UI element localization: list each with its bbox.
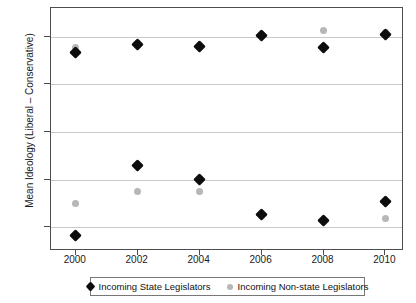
circle-marker-icon bbox=[227, 284, 233, 290]
plot-area bbox=[50, 7, 403, 250]
legend-item-label: Incoming Non-state Legislators bbox=[238, 281, 369, 292]
x-axis-tick-label: 2002 bbox=[114, 254, 160, 265]
data-point-diamond bbox=[317, 41, 330, 54]
diamond-marker-icon bbox=[85, 282, 95, 292]
data-point-diamond bbox=[193, 173, 206, 186]
data-point-diamond bbox=[317, 214, 330, 227]
x-axis-tick-mark bbox=[384, 250, 385, 255]
data-point-circle bbox=[134, 188, 141, 195]
gridline bbox=[51, 84, 402, 85]
gridline bbox=[51, 37, 402, 38]
data-point-diamond bbox=[255, 29, 268, 42]
chart-container: Mean Ideology (Liberal – Conservative) 1… bbox=[0, 0, 416, 303]
data-point-circle bbox=[382, 215, 389, 222]
x-axis-tick-mark bbox=[199, 250, 200, 255]
legend-item[interactable]: Incoming Non-state Legislators bbox=[227, 281, 369, 292]
data-point-diamond bbox=[69, 46, 82, 59]
x-axis-tick-mark bbox=[261, 250, 262, 255]
data-point-circle bbox=[72, 200, 79, 207]
y-axis-title: Mean Ideology (Liberal – Conservative) bbox=[24, 1, 35, 241]
x-axis-tick-label: 2000 bbox=[52, 254, 98, 265]
gridline bbox=[51, 132, 402, 133]
legend-item-label: Incoming State Legislators bbox=[99, 281, 211, 292]
chart-legend: Incoming State LegislatorsIncoming Non-s… bbox=[90, 277, 365, 296]
data-point-circle bbox=[196, 188, 203, 195]
x-axis-tick-label: 2008 bbox=[300, 254, 346, 265]
data-point-diamond bbox=[379, 195, 392, 208]
x-axis-tick-mark bbox=[137, 250, 138, 255]
data-point-diamond bbox=[131, 159, 144, 172]
x-axis-tick-label: 2006 bbox=[238, 254, 284, 265]
data-point-circle bbox=[320, 27, 327, 34]
gridline bbox=[51, 180, 402, 181]
data-point-diamond bbox=[193, 40, 206, 53]
x-axis-tick-mark bbox=[323, 250, 324, 255]
data-point-diamond bbox=[255, 208, 268, 221]
legend-item[interactable]: Incoming State Legislators bbox=[87, 281, 211, 292]
data-point-diamond bbox=[379, 28, 392, 41]
data-point-diamond bbox=[69, 229, 82, 242]
x-axis-tick-label: 2010 bbox=[361, 254, 407, 265]
data-point-diamond bbox=[131, 38, 144, 51]
x-axis-tick-label: 2004 bbox=[176, 254, 222, 265]
x-axis-tick-mark bbox=[75, 250, 76, 255]
gridline bbox=[51, 227, 402, 228]
